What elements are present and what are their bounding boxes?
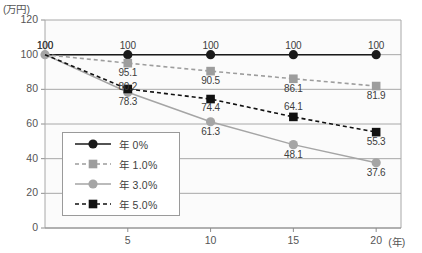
data-point-label: 90.5 — [189, 75, 233, 86]
x-tick-label: 10 — [191, 234, 231, 246]
legend-item-label: 年 0% — [119, 137, 148, 152]
data-point-label: 81.9 — [354, 90, 398, 101]
legend-item-2[interactable]: 年 1.0% — [63, 154, 179, 174]
data-point-label: 100 — [189, 40, 233, 51]
chart-legend: 年 0%年 1.0%年 3.0%年 5.0% — [62, 132, 180, 216]
data-point-marker — [372, 50, 381, 59]
legend-item-label: 年 5.0% — [119, 197, 158, 212]
legend-marker-icon — [75, 197, 111, 211]
x-tick-label: 15 — [273, 234, 313, 246]
data-point-label: 48.1 — [271, 149, 315, 160]
y-tick-label: 20 — [0, 186, 38, 198]
data-point-label: 100 — [354, 40, 398, 51]
legend-marker-icon — [75, 177, 111, 191]
data-point-label: 78.3 — [106, 96, 150, 107]
y-tick-label: 60 — [0, 117, 38, 129]
data-point-label: 55.3 — [354, 136, 398, 147]
data-point-marker — [123, 50, 132, 59]
data-point-label: 74.4 — [189, 102, 233, 113]
legend-item-3[interactable]: 年 3.0% — [63, 174, 179, 194]
legend-item-1[interactable]: 年 0% — [63, 134, 179, 154]
data-point-label: 86.1 — [271, 83, 315, 94]
data-point-label: 61.3 — [189, 126, 233, 137]
legend-marker-icon — [75, 137, 111, 151]
data-point-marker — [123, 59, 132, 68]
y-tick-label: 120 — [0, 13, 38, 25]
data-point-label: 37.6 — [354, 167, 398, 178]
data-point-label: 100 — [106, 40, 150, 51]
data-point-label: 64.1 — [271, 101, 315, 112]
data-point-marker — [206, 50, 215, 59]
data-point-marker — [289, 113, 298, 122]
data-point-label: 80.2 — [106, 81, 150, 92]
x-tick-label: 5 — [108, 234, 148, 246]
legend-item-label: 年 3.0% — [119, 177, 158, 192]
x-axis-unit-label: (年) — [388, 234, 405, 249]
legend-item-4[interactable]: 年 5.0% — [63, 194, 179, 214]
y-tick-label: 40 — [0, 152, 38, 164]
line-chart: (万円) 0204060801001205101520(年)1001001001… — [0, 0, 422, 253]
data-point-marker — [289, 50, 298, 59]
legend-marker-icon — [75, 157, 111, 171]
data-point-label: 100 — [271, 40, 315, 51]
legend-item-label: 年 1.0% — [119, 157, 158, 172]
y-tick-label: 80 — [0, 82, 38, 94]
data-point-label: 95.1 — [106, 67, 150, 78]
y-tick-label: 0 — [0, 221, 38, 233]
origin-annotation-label: 100 — [23, 40, 67, 51]
